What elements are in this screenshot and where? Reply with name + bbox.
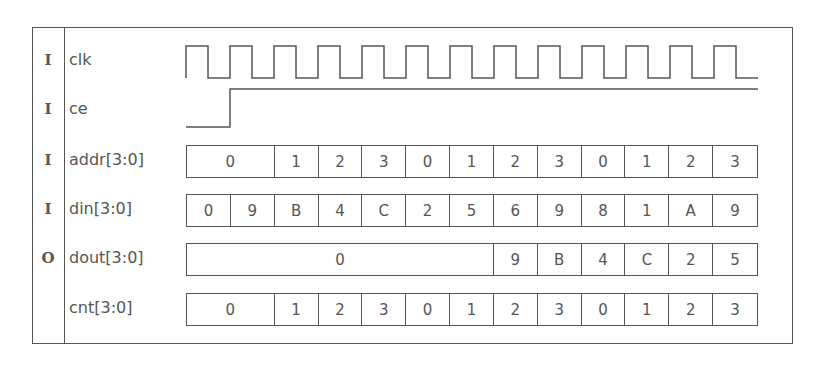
waveform-canvas xyxy=(0,0,817,367)
ce-waveform xyxy=(186,89,758,127)
clk-waveform xyxy=(186,46,758,78)
